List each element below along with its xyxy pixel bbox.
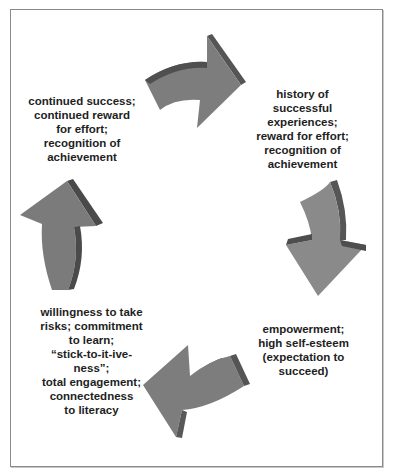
node-history-of-success: history of successful experiences; rewar… (240, 87, 365, 171)
curved-arrow-left-icon (143, 345, 250, 438)
node-willingness: willingness to take risks; commitment to… (34, 305, 149, 417)
curved-arrow-right-icon (145, 34, 246, 128)
node-continued-success: continued success; continued reward for … (22, 94, 142, 164)
curved-arrow-up-icon (20, 179, 103, 290)
node-empowerment: empowerment; high self-esteem (expectati… (246, 322, 361, 378)
curved-arrow-down-icon (286, 180, 366, 296)
